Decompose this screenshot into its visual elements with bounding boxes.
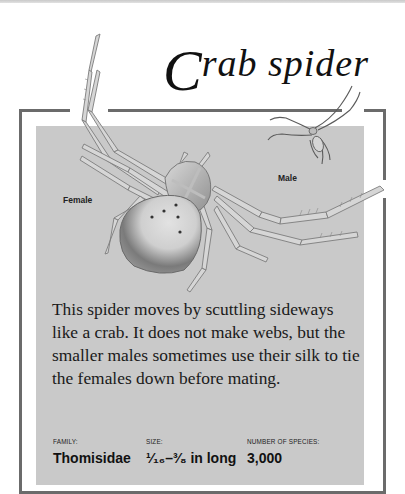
top-strip	[0, 0, 405, 3]
frame-gap	[70, 106, 108, 114]
fact-label: FAMILY:	[53, 437, 119, 447]
page-title: Crab spider	[163, 42, 369, 100]
fact-value: ¹⁄₁₆–³⁄₈ in long	[146, 449, 236, 467]
label-female: Female	[63, 195, 92, 205]
description-text: This spider moves by scuttling sideways …	[52, 298, 362, 390]
frame-gap	[378, 180, 386, 198]
title-initial: C	[163, 38, 202, 103]
fact-number-of-species: NUMBER OF SPECIES: 3,000	[247, 437, 332, 467]
label-male: Male	[278, 173, 297, 183]
fact-value: 3,000	[247, 449, 332, 467]
fact-value: Thomisidae	[53, 449, 131, 467]
title-rest: rab spider	[202, 42, 369, 84]
fact-label: SIZE:	[146, 437, 223, 447]
fact-family: FAMILY: Thomisidae	[53, 437, 131, 467]
fact-label: NUMBER OF SPECIES:	[247, 437, 319, 447]
frame-gap	[342, 106, 364, 114]
fact-size: SIZE: ¹⁄₁₆–³⁄₈ in long	[146, 437, 236, 467]
